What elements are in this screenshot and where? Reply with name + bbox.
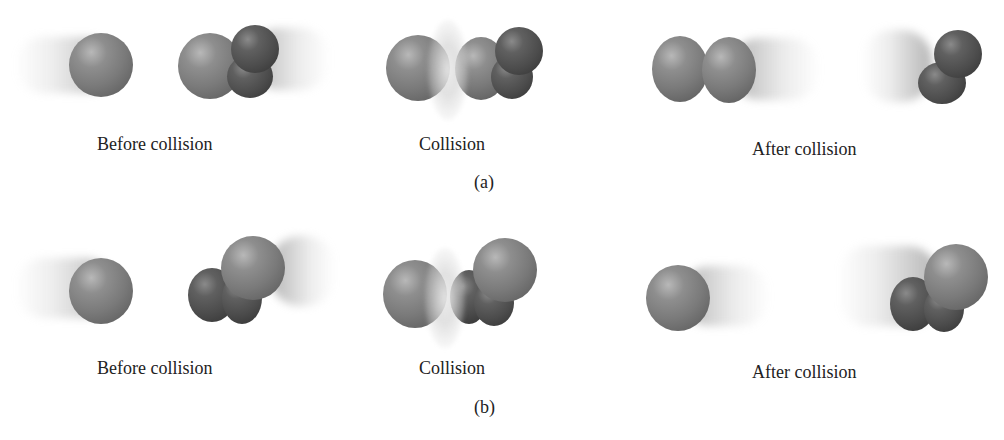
panel-label-collision: Collision: [419, 134, 485, 155]
atom-light: [924, 244, 988, 310]
panel-label-collision: Collision: [419, 358, 485, 379]
atom-light: [473, 238, 537, 302]
subfigure-label-b: (b): [474, 397, 495, 418]
atom-light: [652, 36, 708, 102]
panel-label-before: Before collision: [97, 134, 212, 155]
atom-light: [646, 265, 710, 331]
collision-flash: [428, 20, 468, 120]
atom-light: [69, 33, 133, 97]
atom-dark: [495, 27, 543, 75]
atom-dark: [231, 25, 279, 73]
panel-label-after: After collision: [752, 362, 856, 383]
atom-light: [69, 258, 133, 324]
subfigure-label-a: (a): [474, 172, 494, 193]
collision-flash: [425, 248, 465, 348]
panel-label-before: Before collision: [97, 358, 212, 379]
panel-label-after: After collision: [752, 139, 856, 160]
atom-light: [702, 37, 756, 103]
atom-light: [221, 236, 285, 300]
atom-dark: [934, 30, 982, 78]
